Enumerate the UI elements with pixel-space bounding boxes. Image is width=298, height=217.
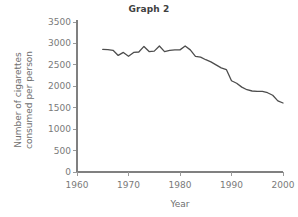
y-axis-title-line-1: Number of cigarettes <box>13 52 23 148</box>
y-axis-title: Number of cigarettes consumed per person <box>13 51 34 149</box>
y-tick-label: 0 <box>65 167 71 177</box>
x-axis-title: Year <box>169 199 189 209</box>
x-tick-label: 1960 <box>66 180 89 190</box>
y-tick-label: 500 <box>54 146 71 156</box>
chart-figure: Graph 2 3500 3000 2500 2000 1500 1000 50… <box>0 0 298 217</box>
x-tick-label: 1970 <box>117 180 140 190</box>
line-chart-plot: 3500 3000 2500 2000 1500 1000 500 0 <box>0 0 298 217</box>
data-series-line <box>103 46 283 103</box>
y-axis-title-line-2: consumed per person <box>24 51 34 149</box>
x-tick-label: 2000 <box>272 180 295 190</box>
y-axis-tick-labels: 3500 3000 2500 2000 1500 1000 500 0 <box>48 17 71 177</box>
x-axis-tick-labels: 1960 1970 1980 1990 2000 <box>66 180 295 190</box>
y-tick-label: 2000 <box>48 81 71 91</box>
y-tick-label: 2500 <box>48 60 71 70</box>
x-axis-tick-marks <box>77 172 283 176</box>
x-tick-label: 1990 <box>220 180 243 190</box>
y-tick-label: 3000 <box>48 38 71 48</box>
y-tick-label: 1500 <box>48 103 71 113</box>
y-tick-label: 1000 <box>48 124 71 134</box>
x-tick-label: 1980 <box>169 180 192 190</box>
y-axis-tick-marks <box>73 22 77 172</box>
y-tick-label: 3500 <box>48 17 71 27</box>
